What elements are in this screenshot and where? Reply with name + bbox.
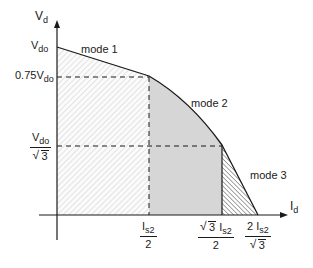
x-tick-is2-half: Is2 2: [140, 221, 157, 250]
x-axis-label: Id: [290, 200, 298, 215]
mode2-label: mode 2: [191, 98, 228, 109]
operating-region-diagram: Vd Id Vdo 0.75Vdo Vdo √3 Is2 2 √3 Is2 2 …: [0, 0, 313, 268]
sqrt-radicand: 3: [258, 239, 266, 251]
y-tick-vdo-sub: do: [38, 44, 48, 54]
mode3-label: mode 3: [250, 170, 287, 181]
frac-num-sub: do: [39, 136, 49, 146]
y-tick-vdo: Vdo: [31, 40, 48, 54]
sqrt-symbol: √3: [33, 150, 49, 162]
frac-num-sub: s2: [145, 225, 155, 235]
y-tick-075vdo-sub: do: [44, 74, 54, 84]
y-tick-vdo-over-sqrt3: Vdo √3: [30, 132, 51, 162]
sqrt-symbol: √3: [250, 239, 266, 251]
y-tick-075vdo: 0.75Vdo: [15, 70, 54, 84]
y-axis-label-sub: d: [43, 15, 48, 25]
sqrt-radicand: 3: [208, 221, 216, 233]
frac-num-sub: s2: [222, 226, 232, 236]
sqrt-symbol: √3: [200, 221, 216, 233]
sqrt-radicand: 3: [41, 150, 49, 162]
y-axis-arrow-icon: [54, 20, 60, 28]
x-axis-arrow-icon: [280, 212, 288, 218]
frac-den: 2: [213, 238, 219, 251]
x-tick-sqrt3-is2-half: √3 Is2 2: [198, 221, 234, 251]
x-tick-2is2-over-sqrt3: 2 Is2 √3: [245, 221, 271, 251]
y-tick-075vdo-main: 0.75V: [15, 69, 44, 81]
mode1-label: mode 1: [81, 44, 118, 55]
y-axis-label-main: V: [35, 9, 43, 23]
frac-den: 2: [145, 237, 151, 250]
x-axis-label-sub: d: [293, 205, 298, 215]
frac-num-sub: s2: [259, 225, 269, 235]
frac-num-prefix: 2: [247, 220, 256, 232]
y-axis-label: Vd: [35, 10, 48, 25]
